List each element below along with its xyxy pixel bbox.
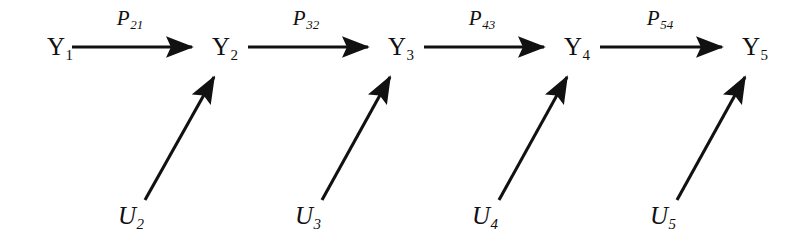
path-coefficient-p43-subscript: 43 xyxy=(482,17,496,32)
node-u5-subscript: 5 xyxy=(668,216,676,232)
node-u4: U4 xyxy=(472,203,498,232)
node-y2-base: Y xyxy=(212,33,230,60)
path-coefficient-p54-base: P xyxy=(647,6,660,30)
node-u2-base: U xyxy=(118,202,136,229)
diagonal-arrow-group xyxy=(145,77,745,200)
node-y5-base: Y xyxy=(742,33,760,60)
path-coefficient-p21-subscript: 21 xyxy=(130,17,144,32)
node-y4-subscript: 4 xyxy=(582,47,590,63)
node-u2-subscript: 2 xyxy=(136,216,144,232)
path-coefficient-p54: P54 xyxy=(647,8,673,31)
node-y3-subscript: 3 xyxy=(406,47,414,63)
node-u5-base: U xyxy=(650,202,668,229)
arrow-u2-y2 xyxy=(145,77,214,200)
path-coefficient-p21-base: P xyxy=(117,6,130,30)
path-coefficient-p54-subscript: 54 xyxy=(660,17,674,32)
node-u3: U3 xyxy=(295,203,321,232)
path-coefficient-p43: P43 xyxy=(469,8,495,31)
path-diagram-canvas: Y1 Y2 Y3 Y4 Y5 U2 U3 U4 U5 P21 P32 P43 P… xyxy=(0,0,790,243)
path-coefficient-p43-base: P xyxy=(469,6,482,30)
node-u4-base: U xyxy=(472,202,490,229)
node-y1-base: Y xyxy=(47,33,65,60)
path-coefficient-p32-base: P xyxy=(293,6,306,30)
node-u3-base: U xyxy=(295,202,313,229)
node-y4-base: Y xyxy=(564,33,582,60)
node-y2-subscript: 2 xyxy=(230,47,238,63)
node-u4-subscript: 4 xyxy=(490,216,498,232)
path-coefficient-p32-subscript: 32 xyxy=(306,17,320,32)
node-y3-base: Y xyxy=(388,33,406,60)
node-y2: Y2 xyxy=(212,34,238,63)
node-u2: U2 xyxy=(118,203,144,232)
path-coefficient-p21: P21 xyxy=(117,8,143,31)
arrow-u4-y4 xyxy=(499,77,567,200)
node-y1-subscript: 1 xyxy=(65,47,73,63)
node-y1: Y1 xyxy=(47,34,73,63)
node-u3-subscript: 3 xyxy=(313,216,321,232)
node-y5: Y5 xyxy=(742,34,768,63)
node-y5-subscript: 5 xyxy=(760,47,768,63)
path-coefficient-p32: P32 xyxy=(293,8,319,31)
node-y4: Y4 xyxy=(564,34,590,63)
node-y3: Y3 xyxy=(388,34,414,63)
arrow-u3-y3 xyxy=(322,77,390,200)
node-u5: U5 xyxy=(650,203,676,232)
arrow-u5-y5 xyxy=(677,77,745,200)
